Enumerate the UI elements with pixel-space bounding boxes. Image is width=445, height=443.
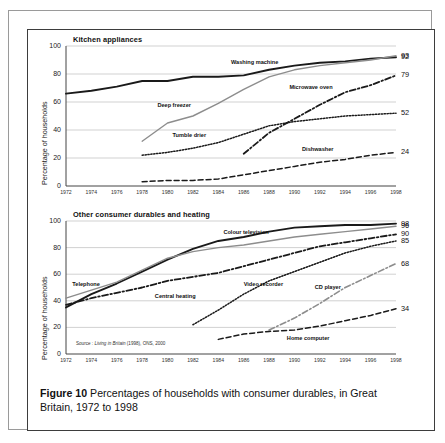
series-label: Video recorder — [244, 281, 283, 287]
y-tick-label: 40 — [41, 126, 61, 133]
source-title: Living in Britain — [94, 341, 125, 346]
y-tick-label: 60 — [41, 98, 61, 105]
x-tick-label: 1986 — [232, 189, 256, 195]
chart2-source: Source : Living in Britain (1998), ONS, … — [76, 341, 165, 346]
caption-text: Percentages of households with consumer … — [40, 387, 377, 413]
chart1-title: Kitchen appliances — [73, 35, 142, 44]
figure-caption: Figure 10 Percentages of households with… — [40, 386, 410, 414]
x-tick-label: 1990 — [282, 357, 306, 363]
series-label: Home computer — [287, 335, 330, 341]
chart1-plot — [28, 30, 436, 210]
y-tick-label: 20 — [41, 323, 61, 330]
series-label: Tumble drier — [173, 132, 206, 138]
series-end-value: 68 — [401, 259, 409, 268]
chart-other-consumer-durables: Other consumer durables and heating Perc… — [28, 205, 434, 383]
x-tick-label: 1996 — [359, 357, 383, 363]
series-label: Telephone — [72, 281, 100, 287]
page-frame: Kitchen appliances Percentage of househo… — [8, 10, 432, 430]
series-line — [66, 224, 396, 308]
x-tick-label: 1988 — [257, 357, 281, 363]
series-end-value: 52 — [401, 108, 409, 117]
x-tick-label: 1972 — [54, 189, 78, 195]
series-label: CD player — [315, 284, 341, 290]
series-label: Colour television — [223, 229, 268, 235]
series-end-value: 93 — [401, 51, 409, 60]
x-tick-label: 1994 — [333, 357, 357, 363]
figure-box: Kitchen appliances Percentage of househo… — [27, 29, 435, 431]
x-tick-label: 1974 — [79, 189, 103, 195]
x-tick-label: 1998 — [384, 189, 408, 195]
x-tick-label: 1984 — [206, 189, 230, 195]
series-label: Deep freezer — [157, 102, 191, 108]
x-tick-label: 1976 — [105, 357, 129, 363]
series-end-value: 24 — [401, 147, 409, 156]
x-tick-label: 1978 — [130, 189, 154, 195]
x-tick-label: 1992 — [308, 357, 332, 363]
series-label: Microwave oven — [289, 84, 332, 90]
series-end-value: 79 — [401, 70, 409, 79]
x-tick-label: 1974 — [79, 357, 103, 363]
x-tick-label: 1972 — [54, 357, 78, 363]
series-end-value: 34 — [401, 304, 409, 313]
chart2-y-axis-label: Percentage of households — [40, 276, 49, 360]
x-tick-label: 1992 — [308, 189, 332, 195]
x-tick-label: 1980 — [156, 357, 180, 363]
caption-label: Figure 10 — [40, 387, 87, 399]
series-line — [66, 234, 396, 304]
y-tick-label: 0 — [41, 182, 61, 189]
x-tick-label: 1982 — [181, 357, 205, 363]
x-tick-label: 1986 — [232, 357, 256, 363]
series-line — [142, 152, 396, 181]
y-tick-label: 100 — [41, 217, 61, 224]
series-line — [142, 56, 396, 141]
y-tick-label: 80 — [41, 244, 61, 251]
x-tick-label: 1984 — [206, 357, 230, 363]
chart-kitchen-appliances: Kitchen appliances Percentage of househo… — [28, 30, 434, 210]
x-tick-label: 1988 — [257, 189, 281, 195]
x-tick-label: 1998 — [384, 357, 408, 363]
source-prefix: Source : — [76, 341, 94, 346]
figure-screenshot: Kitchen appliances Percentage of househo… — [0, 0, 445, 443]
x-tick-label: 1982 — [181, 189, 205, 195]
source-suffix: (1998), ONS, 2000 — [126, 341, 166, 346]
x-tick-label: 1976 — [105, 189, 129, 195]
y-tick-label: 60 — [41, 270, 61, 277]
y-tick-label: 40 — [41, 297, 61, 304]
x-tick-label: 1978 — [130, 357, 154, 363]
series-label: Dishwasher — [302, 146, 333, 152]
series-end-value: 85 — [401, 236, 409, 245]
x-tick-label: 1994 — [333, 189, 357, 195]
x-tick-label: 1980 — [156, 189, 180, 195]
y-tick-label: 100 — [41, 42, 61, 49]
x-tick-label: 1990 — [282, 189, 306, 195]
chart2-title: Other consumer durables and heating — [73, 210, 210, 219]
x-tick-label: 1996 — [359, 189, 383, 195]
y-tick-label: 80 — [41, 70, 61, 77]
y-tick-label: 0 — [41, 350, 61, 357]
series-line — [193, 241, 396, 325]
series-label: Central heating — [155, 293, 196, 299]
chart1-y-axis-label: Percentage of households — [40, 101, 49, 185]
series-label: Washing machine — [231, 59, 278, 65]
y-tick-label: 20 — [41, 154, 61, 161]
